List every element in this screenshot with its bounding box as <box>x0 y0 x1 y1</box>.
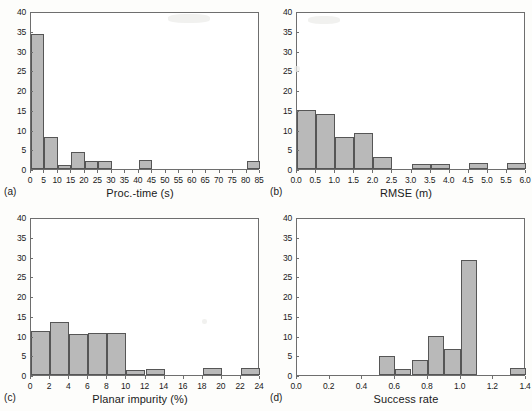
x-axis-tick-label: 0 <box>28 175 33 185</box>
y-axis-tick <box>30 111 33 112</box>
y-axis-tick <box>296 111 299 112</box>
x-axis-tick <box>165 170 166 173</box>
x-axis-tick-label: 45 <box>147 175 156 185</box>
y-axis-tick <box>30 32 33 33</box>
x-axis-tick-label: 3.5 <box>424 175 435 185</box>
y-axis-tick <box>30 52 33 53</box>
x-axis-tick-label: 60 <box>187 175 196 185</box>
x-axis-tick <box>205 170 206 173</box>
y-axis-tick <box>30 131 33 132</box>
x-axis-tick <box>468 170 469 173</box>
y-axis-tick-label: 5 <box>287 351 292 361</box>
y-axis-tick-label: 30 <box>283 253 292 263</box>
xaxis-title-d: Success rate <box>280 393 532 405</box>
y-axis-tick <box>296 71 299 72</box>
histogram-bar <box>98 161 111 169</box>
x-axis-tick-label: 10 <box>52 175 61 185</box>
x-axis-tick-label: 0.2 <box>323 381 334 391</box>
x-axis-tick-label: 0.6 <box>389 381 400 391</box>
y-axis-tick <box>30 71 33 72</box>
x-axis-tick-label: 8 <box>104 381 109 391</box>
x-axis-tick <box>506 170 507 173</box>
y-axis-tick-label: 40 <box>283 7 292 17</box>
y-axis-tick-label: 0 <box>21 371 26 381</box>
histogram-bar <box>379 356 395 375</box>
histogram-bar <box>71 152 84 169</box>
histogram-bar <box>247 161 260 169</box>
x-axis-tick-label: 18 <box>197 381 206 391</box>
x-axis-tick <box>106 376 107 379</box>
y-axis-tick <box>30 91 33 92</box>
y-axis-tick-label: 25 <box>283 272 292 282</box>
y-axis-tick-label: 15 <box>17 312 26 322</box>
y-axis-tick-label: 20 <box>283 86 292 96</box>
x-axis-tick-label: 0.0 <box>290 381 301 391</box>
x-axis-tick-label: 20 <box>216 381 225 391</box>
histogram-bar <box>297 110 316 169</box>
x-axis-tick <box>259 170 260 173</box>
panel-label-a: (a) <box>4 186 17 197</box>
x-axis-tick-label: 3.0 <box>405 175 416 185</box>
x-axis-tick-label: 2.0 <box>367 175 378 185</box>
x-axis-tick-label: 30 <box>106 175 115 185</box>
bars-d <box>297 219 524 375</box>
bars-b <box>297 13 524 169</box>
y-axis-tick-label: 0 <box>21 165 26 175</box>
y-axis-tick <box>296 337 299 338</box>
y-axis-tick-label: 35 <box>17 233 26 243</box>
panel-label-c: (c) <box>4 392 16 403</box>
y-axis-tick <box>296 277 299 278</box>
x-axis-tick-label: 40 <box>133 175 142 185</box>
y-axis-tick <box>296 297 299 298</box>
y-axis-tick-label: 40 <box>17 7 26 17</box>
x-axis-tick <box>30 376 31 379</box>
x-axis-tick-label: 0.5 <box>309 175 320 185</box>
x-axis-tick-label: 24 <box>254 381 263 391</box>
y-axis-tick <box>296 356 299 357</box>
y-axis-tick <box>30 238 33 239</box>
x-axis-tick <box>246 170 247 173</box>
y-axis-tick-label: 20 <box>17 86 26 96</box>
plot-area-d <box>296 218 525 376</box>
plot-area-a <box>30 12 259 170</box>
x-axis-tick <box>487 170 488 173</box>
histogram-bar <box>85 161 98 169</box>
x-axis-tick-label: 4 <box>66 381 71 391</box>
histogram-bar <box>461 260 477 375</box>
y-axis-tick-label: 25 <box>17 272 26 282</box>
y-axis-tick-label: 10 <box>283 126 292 136</box>
y-axis-tick <box>296 52 299 53</box>
histogram-bar <box>139 160 152 169</box>
y-axis-tick-label: 25 <box>283 66 292 76</box>
x-axis-tick <box>296 170 297 173</box>
histogram-bar <box>316 114 335 169</box>
histogram-bar <box>395 369 411 375</box>
y-axis-tick <box>30 258 33 259</box>
y-axis-tick <box>30 356 33 357</box>
panel-a: 0510152025303540051015202530354045505560… <box>0 0 266 205</box>
x-axis-tick-label: 1.4 <box>519 381 530 391</box>
x-axis-tick-label: 75 <box>228 175 237 185</box>
x-axis-tick <box>164 376 165 379</box>
histogram-bar <box>31 34 44 169</box>
xaxis-title-c: Planar impurity (%) <box>14 393 266 405</box>
x-axis-tick-label: 65 <box>201 175 210 185</box>
y-axis-tick-label: 35 <box>283 27 292 37</box>
histogram-bar <box>88 333 107 375</box>
y-axis-tick <box>296 218 299 219</box>
y-axis-tick-label: 40 <box>17 213 26 223</box>
x-axis-tick-label: 0.8 <box>421 381 432 391</box>
plot-area-b <box>296 12 525 170</box>
bars-c <box>31 219 258 375</box>
x-axis-tick <box>57 170 58 173</box>
x-axis-tick-label: 2.5 <box>386 175 397 185</box>
x-axis-tick <box>138 170 139 173</box>
panel-label-b: (b) <box>270 186 283 197</box>
histogram-bar <box>354 133 373 169</box>
x-axis-tick-label: 10 <box>121 381 130 391</box>
x-axis-tick <box>353 170 354 173</box>
y-axis-tick-label: 5 <box>21 351 26 361</box>
histogram-bar <box>241 368 260 375</box>
histogram-bar <box>31 331 50 375</box>
y-axis-tick-label: 20 <box>17 292 26 302</box>
